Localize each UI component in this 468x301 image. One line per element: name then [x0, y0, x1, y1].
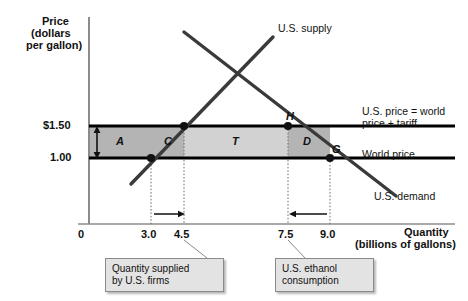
world-price-label: World price [362, 148, 415, 160]
x-axis-title-line-1: Quantity [404, 226, 449, 238]
area-label-C: C [164, 135, 172, 147]
point-label-G: G [332, 143, 341, 155]
x-axis-title-line-2: (billions of gallons) [355, 238, 456, 250]
y-axis-title-line-1: Price [42, 15, 69, 27]
y-tick-100: 1.00 [50, 151, 71, 163]
supply-curve-label: U.S. supply [278, 22, 332, 34]
origin-tick: 0 [78, 228, 84, 240]
point-label-H: H [286, 110, 294, 122]
arrow-consumption-head [289, 211, 296, 217]
demand-curve-label: U.S. demand [374, 190, 435, 202]
x-tick-3-0: 3.0 [141, 228, 156, 240]
callout-ethanol-consumption: U.S. ethanol consumption [275, 258, 374, 292]
y-axis-title-line-2: (dollars [31, 27, 71, 39]
tariff-price-label: U.S. price = world price + tariff [362, 105, 445, 129]
leader-line-supplied [184, 240, 207, 258]
point-G [326, 154, 334, 162]
x-tick-9-0: 9.0 [320, 228, 335, 240]
area-label-D: D [303, 135, 311, 147]
point-H [284, 122, 292, 130]
area-label-T: T [232, 135, 239, 147]
leader-line-consumption [288, 240, 305, 258]
area-label-A: A [116, 135, 124, 147]
y-axis-title-line-3: per gallon) [26, 39, 82, 51]
x-tick-4-5: 4.5 [174, 228, 189, 240]
x-tick-7-5: 7.5 [278, 228, 293, 240]
supply-curve [131, 37, 273, 184]
y-tick-150: $1.50 [43, 119, 71, 131]
point-supply-at-world-price [147, 154, 155, 162]
point-supply-at-tariff-price [180, 122, 188, 130]
callout-quantity-supplied: Quantity supplied by U.S. firms [105, 258, 224, 292]
